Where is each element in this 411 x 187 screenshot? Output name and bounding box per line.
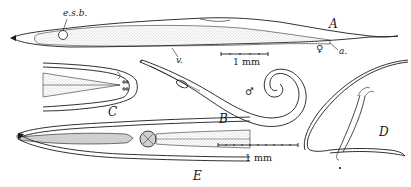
male-symbol: ♂ (245, 87, 254, 97)
panel-d-drawing (304, 60, 408, 169)
panel-e-drawing (17, 117, 250, 161)
panel-c-drawing (43, 63, 137, 111)
female-symbol: ♀ (316, 44, 323, 54)
panel-label-d: D (379, 126, 389, 138)
panel-label-a: A (329, 18, 338, 30)
label-v: v. (176, 56, 183, 65)
label-a: a. (339, 47, 347, 56)
label-esb: e.s.b. (63, 9, 87, 18)
panel-label-c: C (108, 106, 117, 118)
nematode-figure (0, 0, 411, 187)
scale-label-bottom: 1 mm (245, 153, 272, 163)
panel-label-b: B (219, 113, 228, 125)
panel-label-e: E (193, 170, 202, 182)
scale-label-top: 1 mm (233, 57, 260, 67)
